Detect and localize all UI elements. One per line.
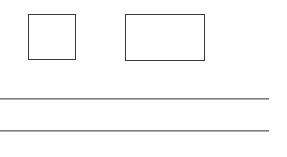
wide-box: [125, 14, 205, 61]
square-box: [28, 14, 76, 60]
horizontal-rule-2: [0, 130, 269, 132]
horizontal-rule-1: [0, 98, 269, 100]
diagram-canvas: [0, 0, 287, 157]
